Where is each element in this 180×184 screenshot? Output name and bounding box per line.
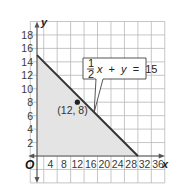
y-tick-label: 10 <box>21 83 33 95</box>
y-tick-label: 18 <box>21 29 33 41</box>
point-label: (12, 8) <box>57 104 87 116</box>
eq-plus: + <box>109 63 115 75</box>
eq-constant: 15 <box>145 63 157 75</box>
x-tick-label: 8 <box>61 158 67 170</box>
y-tick-label: 6 <box>27 110 33 122</box>
origin-label: O <box>25 158 35 172</box>
equation-text: x + y = 15 <box>96 63 157 75</box>
x-tick-label: 16 <box>85 158 97 170</box>
x-tick-label: 32 <box>139 158 151 170</box>
y-arrow-down-icon <box>35 177 40 183</box>
equation-callout: 1 2 x + y = 15 <box>83 57 157 112</box>
x-tick-label: 24 <box>112 158 124 170</box>
y-arrow-up-icon <box>35 22 40 28</box>
x-tick-label: 20 <box>98 158 110 170</box>
y-tick-label: 8 <box>27 96 33 108</box>
y-tick-label: 2 <box>27 137 33 149</box>
y-tick-label: 12 <box>21 69 33 81</box>
coordinate-graph: 481216202428323624681012141618 x y O (12… <box>0 0 180 184</box>
y-tick-label: 14 <box>21 56 33 68</box>
x-tick-label: 4 <box>48 158 54 170</box>
eq-var-x: x <box>96 63 103 75</box>
fraction-denominator: 2 <box>88 68 94 80</box>
eq-equals: = <box>133 63 139 75</box>
eq-var-y: y <box>120 63 128 75</box>
x-tick-label: 28 <box>125 158 137 170</box>
x-axis-label: x <box>161 158 169 170</box>
y-tick-label: 16 <box>21 42 33 54</box>
x-tick-label: 12 <box>72 158 84 170</box>
y-tick-label: 4 <box>27 123 33 135</box>
y-axis-label: y <box>40 16 48 28</box>
